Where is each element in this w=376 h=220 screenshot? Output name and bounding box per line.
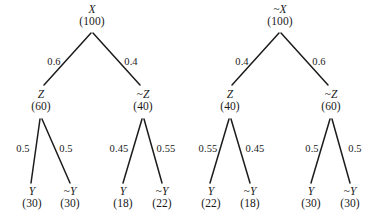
node-value: (100) bbox=[79, 16, 104, 28]
node-value: (60) bbox=[321, 101, 341, 113]
node-value: (22) bbox=[201, 198, 221, 210]
leaf-noty-1: ~Y (30) bbox=[60, 186, 80, 210]
prob-notz-noty: 0.55 bbox=[157, 143, 176, 154]
node-value: (30) bbox=[340, 198, 360, 210]
node-value: (18) bbox=[113, 198, 133, 210]
prob-notz-y: 0.45 bbox=[110, 143, 129, 154]
prob-notx-notz: 0.6 bbox=[312, 56, 325, 67]
prob-rnotz-noty: 0.5 bbox=[348, 143, 361, 154]
node-value: (100) bbox=[267, 16, 292, 28]
node-root-notx: ~X (100) bbox=[267, 4, 292, 28]
prob-rz-noty: 0.45 bbox=[246, 143, 265, 154]
prob-notx-z: 0.4 bbox=[235, 56, 248, 67]
leaf-y-4: Y (30) bbox=[301, 186, 321, 210]
leaf-noty-3: ~Y (18) bbox=[240, 186, 260, 210]
node-value: (60) bbox=[31, 101, 51, 113]
prob-z-noty: 0.5 bbox=[59, 143, 72, 154]
node-value: (30) bbox=[22, 198, 42, 210]
node-value: (22) bbox=[152, 198, 172, 210]
node-notz-right: ~Z (60) bbox=[321, 89, 341, 113]
prob-rnotz-y: 0.5 bbox=[305, 143, 318, 154]
leaf-noty-2: ~Y (22) bbox=[152, 186, 172, 210]
prob-z-y: 0.5 bbox=[16, 143, 29, 154]
leaf-y-1: Y (30) bbox=[22, 186, 42, 210]
node-z-left: Z (60) bbox=[31, 89, 51, 113]
node-notz-left: ~Z (40) bbox=[133, 89, 153, 113]
node-value: (18) bbox=[240, 198, 260, 210]
node-value: (40) bbox=[220, 101, 240, 113]
node-value: (30) bbox=[60, 198, 80, 210]
node-z-right: Z (40) bbox=[220, 89, 240, 113]
prob-x-z: 0.6 bbox=[47, 56, 60, 67]
prob-x-notz: 0.4 bbox=[124, 56, 137, 67]
node-root-x: X (100) bbox=[79, 4, 104, 28]
edge-z-to-y bbox=[31, 119, 40, 183]
prob-rz-y: 0.55 bbox=[199, 143, 218, 154]
leaf-y-2: Y (18) bbox=[113, 186, 133, 210]
diagram-canvas: X (100) 0.6 0.4 Z (60) ~Z (40) 0.5 0.5 0… bbox=[0, 0, 376, 220]
node-value: (30) bbox=[301, 198, 321, 210]
leaf-y-3: Y (22) bbox=[201, 186, 221, 210]
leaf-noty-4: ~Y (30) bbox=[340, 186, 360, 210]
node-value: (40) bbox=[133, 101, 153, 113]
